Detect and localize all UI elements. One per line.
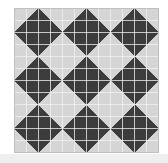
dark-square-patch xyxy=(74,32,86,44)
dark-square-patch xyxy=(26,32,38,44)
dark-square-patch xyxy=(38,117,50,129)
dark-square-patch xyxy=(87,20,99,32)
dark-square-patch xyxy=(123,20,135,32)
dark-square-patch xyxy=(74,20,86,32)
dark-square-patch xyxy=(26,117,38,129)
dark-square-patch xyxy=(74,129,86,141)
dark-square-patch xyxy=(123,117,135,129)
dark-square-patch xyxy=(123,68,135,80)
quilt-svg xyxy=(14,8,159,153)
quilt-pattern xyxy=(14,8,159,153)
dark-square-patch xyxy=(135,129,147,141)
dark-square-patch xyxy=(26,68,38,80)
dark-square-patch xyxy=(135,117,147,129)
dark-square-patch xyxy=(135,81,147,93)
dark-square-patch xyxy=(123,32,135,44)
dark-square-patch xyxy=(38,68,50,80)
dark-square-patch xyxy=(26,81,38,93)
dark-square-patch xyxy=(135,20,147,32)
dark-square-patch xyxy=(74,68,86,80)
dark-square-patch xyxy=(135,68,147,80)
dark-square-patch xyxy=(87,32,99,44)
dark-square-patch xyxy=(123,81,135,93)
dark-square-patch xyxy=(87,117,99,129)
dark-square-patch xyxy=(26,20,38,32)
dark-square-patch xyxy=(74,117,86,129)
dark-square-patch xyxy=(123,129,135,141)
dark-square-patch xyxy=(38,129,50,141)
dark-square-patch xyxy=(87,81,99,93)
dark-square-patch xyxy=(87,129,99,141)
right-margin xyxy=(159,0,168,163)
dark-square-patch xyxy=(38,20,50,32)
quilt-image-canvas xyxy=(0,0,168,163)
dark-square-patch xyxy=(38,81,50,93)
dark-square-patch xyxy=(87,68,99,80)
dark-square-patch xyxy=(74,81,86,93)
dark-square-patch xyxy=(135,32,147,44)
dark-square-patch xyxy=(38,32,50,44)
bottom-margin-band xyxy=(0,154,168,163)
quilt-patch-layer xyxy=(14,8,159,153)
dark-square-patch xyxy=(26,129,38,141)
